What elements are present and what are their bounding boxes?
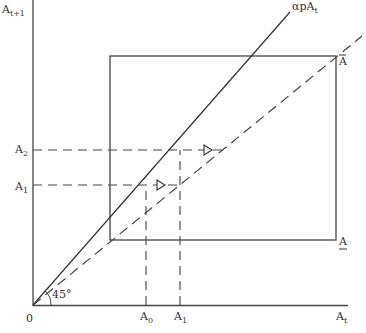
y-tick-A2: A2	[14, 143, 28, 158]
origin-label: 0	[26, 312, 33, 325]
upper-bound-label: A	[338, 55, 348, 68]
x-axis-label: At	[335, 310, 348, 325]
solid-line-label: αpAt	[292, 0, 318, 15]
y-axis-label: At+1	[1, 3, 25, 18]
diagram-canvas: At+1 At 0 αpAt 45° A A A2 A1 A0 A1	[0, 0, 366, 333]
x-tick-A1: A1	[173, 310, 187, 325]
arrow-right-icon	[157, 180, 165, 190]
x-tick-A0: A0	[139, 310, 153, 325]
lower-bound-label: A	[338, 235, 348, 248]
angle-label: 45°	[52, 288, 72, 301]
arrow-right-icon	[204, 145, 212, 155]
bounds-rectangle	[110, 56, 336, 240]
dashed-mapping-line	[33, 36, 362, 305]
y-tick-A1: A1	[14, 180, 28, 195]
